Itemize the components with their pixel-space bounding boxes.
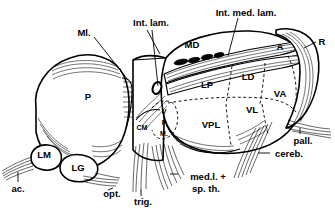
label-vl: VL (246, 104, 258, 115)
label-r: R (319, 36, 326, 47)
label-int-med-lam: Int. med. lam. (216, 7, 277, 18)
medial-lemniscus-spinothalamic-bundle (152, 144, 184, 190)
label-pall: pall. (293, 135, 312, 146)
label-lp: LP (201, 79, 214, 90)
label-int-lam: Int. lam. (133, 17, 169, 28)
label-opt: opt. (103, 188, 120, 199)
label-vpm-p: P (162, 119, 167, 126)
label-a: A (277, 41, 284, 52)
label-lg: LG (71, 162, 84, 173)
label-p: P (85, 91, 92, 102)
label-trig: trig. (134, 196, 152, 207)
label-ld: LD (242, 71, 255, 82)
thalamus-diagram: P LM LG CM MD LP LD A VA VL VPL R V P M.… (0, 0, 335, 215)
label-medl-1: med.l. + (190, 171, 226, 182)
label-cereb: cereb. (275, 148, 303, 159)
label-ac: ac. (11, 183, 24, 194)
label-vpm-v: V (162, 108, 167, 115)
label-va: VA (274, 88, 287, 99)
label-medl-2: sp. th. (192, 183, 220, 194)
label-vpl: VPL (202, 119, 221, 130)
label-cm: CM (137, 124, 148, 131)
thalamus-figure: P LM LG CM MD LP LD A VA VL VPL R V P M.… (0, 0, 335, 215)
label-vpm-m: M. (160, 130, 168, 137)
label-lm: LM (37, 149, 51, 160)
label-ml: Ml. (77, 27, 90, 38)
label-md: MD (185, 39, 200, 50)
